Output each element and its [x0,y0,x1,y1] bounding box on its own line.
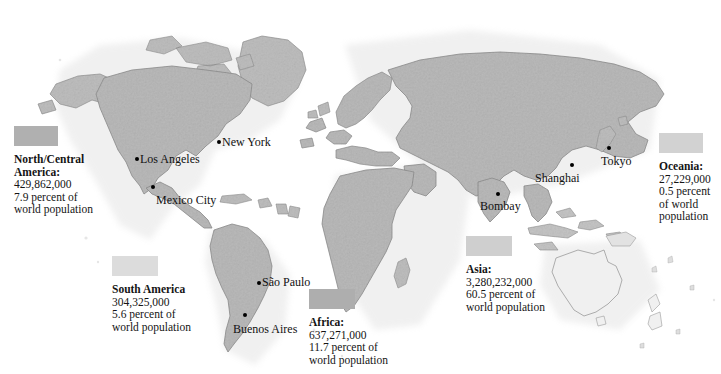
legend-population-africa: 637,271,000 [309,329,407,342]
legend-asia: Asia:3,280,232,00060.5 percent ofworld p… [466,236,566,313]
legend-percent-oceania: 0.5 percent [659,185,717,198]
legend-south-america: South America304,325,0005.6 percent ofwo… [112,256,208,333]
legend-name-south-america: South America [112,283,208,296]
legend-percent-cont-north-central-america: world population [14,203,106,216]
legend-swatch-asia [466,236,512,256]
legend-oceania: Oceania:27,229,0000.5 percentof world po… [659,133,717,223]
city-name-bombay: Bombay [480,199,521,213]
legend-swatch-africa [309,289,355,309]
legend-population-asia: 3,280,232,000 [466,276,566,289]
map-figure: percent of world population [0,0,721,374]
legend-swatch-oceania [659,133,703,153]
city-name-sao-paulo: São Paulo [262,275,310,289]
legend-percent-south-america: 5.6 percent of [112,308,208,321]
city-name-new-york: New York [222,135,271,149]
city-label-tokyo: Tokyo [601,153,632,169]
city-dot-tokyo [607,146,611,150]
city-name-tokyo: Tokyo [601,154,632,168]
legend-percent-north-central-america: 7.9 percent of [14,191,106,204]
legend-population-north-central-america: 429,862,000 [14,178,106,191]
legend-population-south-america: 304,325,000 [112,296,208,309]
city-dot-sao-paulo [257,281,261,285]
legend-percent-cont-asia: world population [466,301,566,314]
legend-percent-cont-south-america: world population [112,321,208,334]
city-dot-mexico-city [151,185,155,189]
legend-percent-cont-oceania: of world population [659,198,717,223]
legend-population-oceania: 27,229,000 [659,173,717,186]
legend-percent-africa: 11.7 percent of [309,341,407,354]
legend-swatch-north-central-america [14,126,58,146]
city-name-los-angeles: Los Angeles [140,152,200,166]
city-label-los-angeles: Los Angeles [140,151,200,167]
legend-percent-asia: 60.5 percent of [466,288,566,301]
legend-name-north-central-america: North/Central America: [14,153,106,178]
city-dot-new-york [217,140,221,144]
city-dot-los-angeles [135,157,139,161]
city-label-sao-paulo: São Paulo [262,274,310,290]
city-name-mexico-city: Mexico City [156,193,216,207]
city-dot-shanghai [570,163,574,167]
city-label-bombay: Bombay [480,198,521,214]
city-dot-bombay [496,192,500,196]
legend-north-central-america: North/Central America:429,862,0007.9 per… [14,126,106,216]
city-dot-buenos-aires [243,313,247,317]
tasmania [596,316,606,326]
legend-name-asia: Asia: [466,263,566,276]
city-label-new-york: New York [222,134,271,150]
city-label-buenos-aires: Buenos Aires [233,321,297,337]
legend-name-africa: Africa: [309,316,407,329]
legend-name-oceania: Oceania: [659,160,717,173]
legend-swatch-south-america [112,256,158,276]
city-label-mexico-city: Mexico City [156,192,216,208]
city-name-buenos-aires: Buenos Aires [233,322,297,336]
city-label-shanghai: Shanghai [535,170,580,186]
city-name-shanghai: Shanghai [535,171,580,185]
legend-percent-cont-africa: world population [309,354,407,367]
legend-africa: Africa:637,271,00011.7 percent ofworld p… [309,289,407,366]
